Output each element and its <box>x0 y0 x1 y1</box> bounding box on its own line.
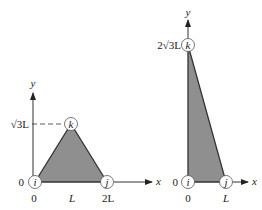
x-tick-2: 2L <box>102 192 115 204</box>
node-i-label: i <box>186 176 189 188</box>
y-axis-label: y <box>185 6 191 18</box>
x-tick-1: L <box>68 192 75 204</box>
x-axis-label: x <box>251 175 257 187</box>
x-axis-label: x <box>155 175 161 187</box>
x-tick-0: 0 <box>185 192 191 204</box>
left-figure: i j k y x 0 √3L 0 L 2L <box>11 77 161 204</box>
triangle-element <box>35 124 107 182</box>
right-figure: i j k y x 0 2√3L 0 L <box>157 6 257 204</box>
x-tick-1: L <box>222 192 229 204</box>
y-tick-origin: 0 <box>173 176 179 188</box>
triangle-element <box>188 45 226 182</box>
y-axis-label: y <box>30 77 36 89</box>
y-tick-top: 2√3L <box>157 39 181 51</box>
diagram-canvas: i j k y x 0 √3L 0 L 2L i j k y x 0 2√3L … <box>0 0 262 210</box>
y-tick-origin: 0 <box>19 176 25 188</box>
x-tick-0: 0 <box>31 192 37 204</box>
node-i-label: i <box>33 176 36 188</box>
y-tick-top: √3L <box>11 118 30 130</box>
